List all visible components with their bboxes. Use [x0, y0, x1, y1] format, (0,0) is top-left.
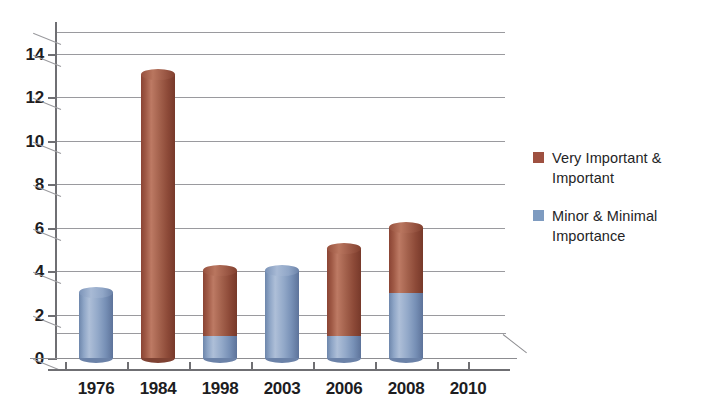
y-tick-mark — [48, 271, 56, 273]
floor-right-edge — [503, 334, 527, 353]
bar-segment-minor-minimal[interactable] — [389, 293, 423, 358]
y-tick-label: 8 — [10, 176, 44, 193]
x-tick-mark — [437, 362, 439, 370]
x-tick-label: 2003 — [251, 380, 313, 397]
gridline — [57, 228, 505, 229]
x-tick-label: 2006 — [313, 380, 375, 397]
chart-canvas: 14121086420 1976198419982003200620082010… — [0, 0, 704, 413]
gridline — [57, 184, 505, 185]
gridline — [57, 97, 505, 98]
y-tick-label: 14 — [10, 46, 44, 63]
y-tick-label: 12 — [10, 89, 44, 106]
bar-column[interactable] — [79, 293, 113, 358]
legend-swatch-icon-minor-minimal — [533, 210, 544, 221]
bar-segment-minor-minimal[interactable] — [203, 336, 237, 358]
bar-segment-very-important[interactable] — [327, 249, 361, 336]
x-tick-mark — [251, 362, 253, 370]
y-tick-mark — [48, 97, 56, 99]
legend-entry-very-important[interactable]: Very Important & Important — [533, 148, 704, 188]
y-tick-mark — [48, 141, 56, 143]
bar-column[interactable] — [265, 271, 299, 358]
bar-top-ellipse — [79, 287, 113, 298]
bar-segment-minor-minimal[interactable] — [327, 336, 361, 358]
y-tick-mark — [48, 228, 56, 230]
y-tick-mark — [48, 315, 56, 317]
x-tick-mark — [189, 362, 191, 370]
plot-top-edge — [57, 32, 505, 33]
x-tick-label: 2008 — [375, 380, 437, 397]
x-axis-line — [48, 369, 510, 371]
bar-column[interactable] — [389, 228, 423, 358]
x-tick-label: 1984 — [127, 380, 189, 397]
gridline — [57, 141, 505, 142]
y-tick-label: 6 — [10, 220, 44, 237]
legend-entry-minor-minimal[interactable]: Minor & Minimal Importance — [533, 206, 704, 246]
bar-segment-minor-minimal[interactable] — [265, 271, 299, 358]
x-tick-mark — [468, 362, 470, 370]
chart-legend: Very Important & Important Minor & Minim… — [533, 148, 704, 264]
bar-segment-very-important[interactable] — [203, 271, 237, 336]
y-tick-label: 4 — [10, 263, 44, 280]
bar-top-ellipse — [389, 222, 423, 233]
bar-column[interactable] — [141, 75, 175, 358]
bar-column[interactable] — [203, 271, 237, 358]
y-tick-label: 10 — [10, 133, 44, 150]
plot-area — [57, 10, 505, 360]
x-tick-label: 2010 — [437, 380, 499, 397]
bar-segment-very-important[interactable] — [141, 75, 175, 358]
x-tick-mark — [313, 362, 315, 370]
legend-label-minor-minimal: Minor & Minimal Importance — [552, 206, 657, 246]
gridline — [57, 54, 505, 55]
x-tick-label: 1976 — [65, 380, 127, 397]
bar-top-ellipse — [265, 265, 299, 276]
legend-swatch-icon-very-important — [533, 152, 544, 163]
legend-label-very-important: Very Important & Important — [552, 148, 662, 188]
bar-top-ellipse — [203, 265, 237, 276]
x-tick-mark — [375, 362, 377, 370]
x-tick-mark — [127, 362, 129, 370]
plot-top-depth-connector — [33, 33, 61, 45]
y-tick-label: 2 — [10, 307, 44, 324]
bar-segment-very-important[interactable] — [389, 228, 423, 293]
x-tick-mark — [65, 362, 67, 370]
bar-segment-minor-minimal[interactable] — [79, 293, 113, 358]
x-tick-label: 1998 — [189, 380, 251, 397]
y-tick-mark — [48, 184, 56, 186]
y-tick-mark — [48, 54, 56, 56]
bar-column[interactable] — [327, 249, 361, 358]
